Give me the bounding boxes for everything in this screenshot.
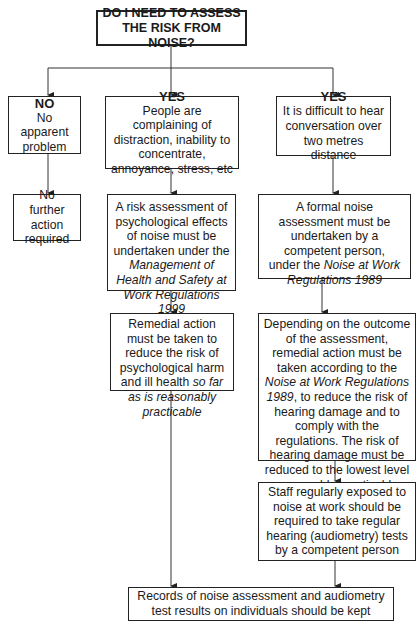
- no-outcome-box: No further action required: [13, 194, 81, 241]
- no-heading: NO: [35, 96, 55, 111]
- psychological-assessment-box: A risk assessment of psychological effec…: [107, 194, 236, 291]
- yes-psychological-heading: YES: [159, 89, 185, 104]
- formal-noise-assessment-box: A formal noise assessment must be undert…: [258, 194, 411, 279]
- yes-psychological-condition-box: YES People are complaining of distractio…: [105, 96, 239, 169]
- question-line-2: THE RISK FROM NOISE?: [101, 21, 242, 51]
- hearing-remedial-box: Depending on the outcome of the assessme…: [258, 313, 416, 461]
- psychological-remedial-box: Remedial action must be taken to reduce …: [110, 313, 234, 391]
- yes-psychological-condition-text: People are complaining of distraction, i…: [109, 104, 235, 177]
- hearing-remedial-text-pre: Depending on the outcome of the assessme…: [264, 317, 410, 375]
- psychological-assessment-text: A risk assessment of psychological effec…: [114, 200, 230, 258]
- no-outcome-text: No further action required: [20, 188, 74, 246]
- yes-hearing-condition-text: It is difficult to hear conversation ove…: [280, 104, 387, 162]
- audiometry-tests-text: Staff regularly exposed to noise at work…: [265, 485, 409, 558]
- no-condition-box: NO No apparent problem: [8, 96, 81, 154]
- records-text: Records of noise assessment and audiomet…: [137, 589, 385, 618]
- no-condition-text: No apparent problem: [12, 111, 77, 155]
- question-line-1: DO I NEED TO ASSESS: [102, 6, 240, 21]
- audiometry-tests-box: Staff regularly exposed to noise at work…: [258, 482, 416, 561]
- question-box: DO I NEED TO ASSESS THE RISK FROM NOISE?: [96, 10, 247, 46]
- yes-hearing-condition-box: YES It is difficult to hear conversation…: [276, 96, 391, 156]
- records-box: Records of noise assessment and audiomet…: [128, 587, 394, 621]
- yes-hearing-heading: YES: [320, 89, 346, 104]
- hearing-remedial-text-post: , to reduce the risk of hearing damage a…: [265, 390, 409, 492]
